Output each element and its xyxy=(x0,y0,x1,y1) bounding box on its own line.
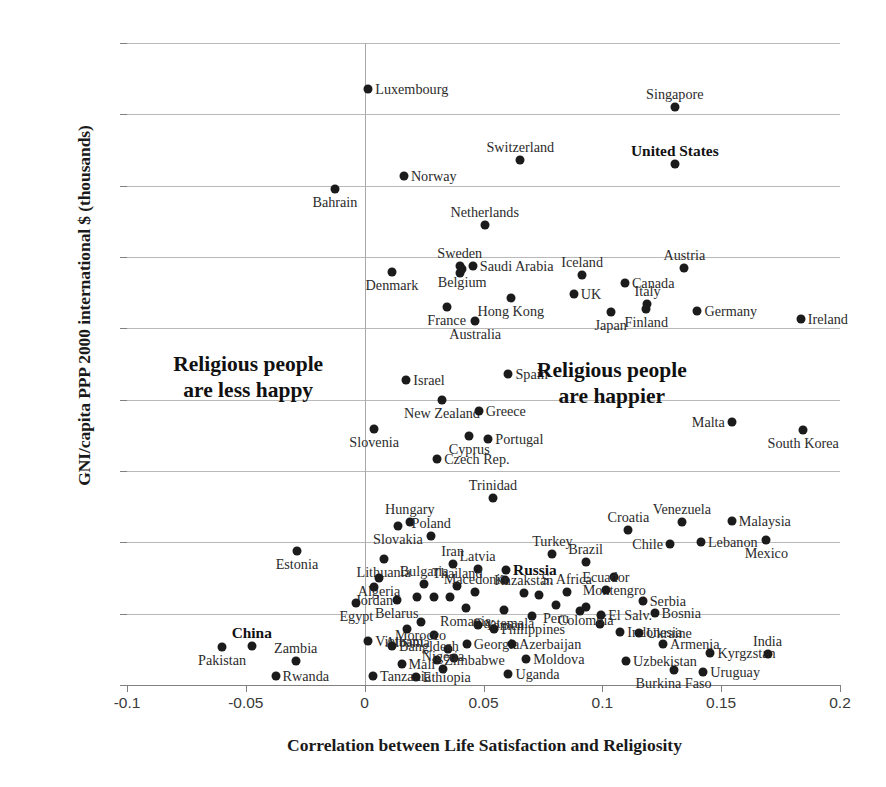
x-axis-tick-label: 0.05 xyxy=(468,694,498,712)
data-point-label: Uruguay xyxy=(710,665,760,679)
data-point[interactable] xyxy=(370,583,379,592)
x-axis-tick-label: 0 xyxy=(360,694,369,712)
data-point[interactable] xyxy=(606,307,615,316)
data-point[interactable] xyxy=(379,555,388,564)
data-point[interactable] xyxy=(490,624,499,633)
data-point[interactable] xyxy=(548,549,557,558)
data-point[interactable] xyxy=(799,425,808,434)
data-point[interactable] xyxy=(670,103,679,112)
data-point[interactable] xyxy=(471,317,480,326)
data-point[interactable] xyxy=(429,593,438,602)
y-axis-tick xyxy=(120,685,127,686)
y-axis-tick xyxy=(120,186,127,187)
data-point[interactable] xyxy=(465,432,474,441)
data-point[interactable] xyxy=(370,424,379,433)
y-axis-tick xyxy=(120,43,127,44)
data-point[interactable] xyxy=(680,263,689,272)
data-point[interactable] xyxy=(292,546,301,555)
data-point[interactable] xyxy=(508,639,517,648)
data-point[interactable] xyxy=(504,369,513,378)
data-point-label: Slovenia xyxy=(349,435,399,449)
data-point[interactable] xyxy=(411,673,420,682)
data-point[interactable] xyxy=(352,598,361,607)
data-point[interactable] xyxy=(569,290,578,299)
data-point-label: Belarus xyxy=(375,606,418,620)
data-point[interactable] xyxy=(247,642,256,651)
data-point[interactable] xyxy=(393,521,402,530)
data-point[interactable] xyxy=(402,376,411,385)
data-point[interactable] xyxy=(392,596,401,605)
data-point[interactable] xyxy=(420,580,429,589)
data-point[interactable] xyxy=(489,494,498,503)
data-point[interactable] xyxy=(706,648,715,657)
data-point[interactable] xyxy=(442,302,451,311)
data-point[interactable] xyxy=(638,596,647,605)
data-point[interactable] xyxy=(669,666,678,675)
data-point[interactable] xyxy=(727,516,736,525)
data-point[interactable] xyxy=(696,537,705,546)
data-point[interactable] xyxy=(578,270,587,279)
data-point[interactable] xyxy=(458,265,467,274)
data-point[interactable] xyxy=(271,672,280,681)
data-point[interactable] xyxy=(471,588,480,597)
data-point[interactable] xyxy=(484,434,493,443)
data-point[interactable] xyxy=(364,636,373,645)
data-point[interactable] xyxy=(412,593,421,602)
data-point[interactable] xyxy=(622,656,631,665)
data-point[interactable] xyxy=(677,518,686,527)
data-point[interactable] xyxy=(650,608,659,617)
data-point[interactable] xyxy=(522,655,531,664)
data-point[interactable] xyxy=(666,540,675,549)
data-point[interactable] xyxy=(291,656,300,665)
data-point[interactable] xyxy=(480,220,489,229)
data-point[interactable] xyxy=(387,267,396,276)
data-point[interactable] xyxy=(374,574,383,583)
data-point[interactable] xyxy=(535,591,544,600)
data-point[interactable] xyxy=(601,586,610,595)
data-point[interactable] xyxy=(446,593,455,602)
data-point-label: Luxembourg xyxy=(375,82,448,96)
data-point[interactable] xyxy=(330,184,339,193)
data-point[interactable] xyxy=(506,293,515,302)
data-point[interactable] xyxy=(616,627,625,636)
data-point[interactable] xyxy=(427,531,436,540)
data-point[interactable] xyxy=(399,172,408,181)
data-point[interactable] xyxy=(387,641,396,650)
data-point[interactable] xyxy=(416,617,425,626)
data-point[interactable] xyxy=(635,628,644,637)
data-point[interactable] xyxy=(796,315,805,324)
data-point[interactable] xyxy=(581,558,590,567)
data-point[interactable] xyxy=(670,159,679,168)
data-point[interactable] xyxy=(658,640,667,649)
data-point[interactable] xyxy=(551,601,560,610)
data-point[interactable] xyxy=(727,418,736,427)
data-point[interactable] xyxy=(597,611,606,620)
data-point[interactable] xyxy=(516,155,525,164)
data-point[interactable] xyxy=(437,396,446,405)
x-axis-tick xyxy=(127,685,128,692)
data-point[interactable] xyxy=(468,261,477,270)
data-point[interactable] xyxy=(499,606,508,615)
data-point[interactable] xyxy=(581,602,590,611)
data-point[interactable] xyxy=(763,650,772,659)
data-point[interactable] xyxy=(620,279,629,288)
data-point[interactable] xyxy=(364,85,373,94)
data-point[interactable] xyxy=(368,671,377,680)
data-point[interactable] xyxy=(474,407,483,416)
data-point[interactable] xyxy=(699,668,708,677)
data-point-label: Denmark xyxy=(366,278,419,292)
data-point[interactable] xyxy=(519,588,528,597)
data-point[interactable] xyxy=(624,526,633,535)
data-point[interactable] xyxy=(473,621,482,630)
data-point[interactable] xyxy=(642,305,651,314)
data-point[interactable] xyxy=(504,669,513,678)
data-point[interactable] xyxy=(693,307,702,316)
data-point[interactable] xyxy=(562,588,571,597)
quadrant-annotation: Religious people are happier xyxy=(537,356,687,408)
data-point[interactable] xyxy=(762,536,771,545)
data-point[interactable] xyxy=(218,643,227,652)
data-point-label: Norway xyxy=(411,169,457,183)
data-point[interactable] xyxy=(461,603,470,612)
data-point[interactable] xyxy=(433,454,442,463)
y-axis-tick xyxy=(120,542,127,543)
